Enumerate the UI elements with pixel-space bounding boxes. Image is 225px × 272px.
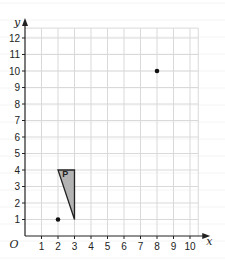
y-tick-label: 10 — [9, 66, 21, 77]
y-tick-label: 11 — [10, 49, 21, 60]
y-tick-label: 1 — [14, 214, 20, 225]
x-tick-label: 10 — [184, 241, 196, 252]
x-tick-label: 1 — [39, 241, 45, 252]
y-tick-label: 7 — [14, 115, 20, 126]
y-axis-label: y — [13, 16, 21, 29]
shape-label-p: P — [62, 169, 68, 179]
x-tick-label: 8 — [154, 241, 160, 252]
data-point — [155, 69, 160, 74]
x-tick-label: 9 — [171, 241, 177, 252]
y-tick-label: 12 — [9, 33, 21, 44]
x-axis-label: x — [206, 235, 213, 248]
y-tick-label: 3 — [14, 181, 20, 192]
data-point — [56, 217, 61, 222]
x-tick-label: 4 — [88, 241, 94, 252]
y-tick-label: 4 — [14, 165, 20, 176]
y-tick-label: 8 — [14, 99, 20, 110]
y-tick-label: 9 — [14, 82, 20, 93]
x-tick-label: 3 — [72, 241, 78, 252]
x-tick-label: 5 — [105, 241, 111, 252]
y-tick-label: 5 — [14, 148, 20, 159]
background — [0, 0, 225, 272]
y-tick-label: 2 — [14, 198, 20, 209]
coordinate-grid-chart: P 12345678910123456789101112Oxy — [0, 0, 225, 272]
origin-label: O — [9, 238, 18, 251]
x-tick-label: 6 — [121, 241, 127, 252]
y-tick-label: 6 — [14, 132, 20, 143]
x-tick-label: 2 — [55, 241, 61, 252]
x-tick-label: 7 — [138, 241, 144, 252]
